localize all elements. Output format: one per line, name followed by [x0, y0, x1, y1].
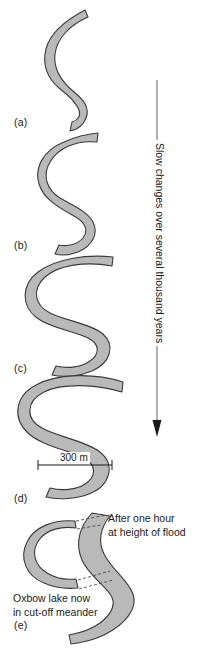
meander-diagram-svg	[0, 0, 199, 648]
scale-bar-label: 300 m	[58, 452, 90, 463]
panel-label-e: (e)	[14, 619, 27, 631]
river-channel-b	[38, 133, 98, 255]
timeline-arrowhead-icon	[153, 420, 162, 437]
flood-annotation: After one hour at height of flood	[108, 512, 186, 539]
river-channel-d	[18, 376, 123, 499]
panel-label-d: (d)	[14, 492, 27, 504]
panel-label-a: (a)	[14, 116, 27, 128]
river-meander-figure: (a) (b) (c) (d) (e) 300 m Slow changes o…	[0, 0, 199, 648]
river-channel-c	[25, 256, 113, 376]
oxbow-annotation: Oxbow lake now in cut-off meander	[13, 592, 97, 619]
panel-label-c: (c)	[14, 362, 27, 374]
oxbow-lake	[24, 521, 78, 589]
oxbow-annotation-line2: in cut-off meander	[13, 606, 97, 620]
oxbow-annotation-line1: Oxbow lake now	[13, 592, 97, 606]
river-channel-a	[45, 10, 88, 131]
panel-label-b: (b)	[14, 239, 27, 251]
timeline-label: Slow changes over several thousand years	[154, 140, 166, 346]
flood-annotation-line2: at height of flood	[108, 526, 186, 540]
flood-annotation-line1: After one hour	[108, 512, 186, 526]
